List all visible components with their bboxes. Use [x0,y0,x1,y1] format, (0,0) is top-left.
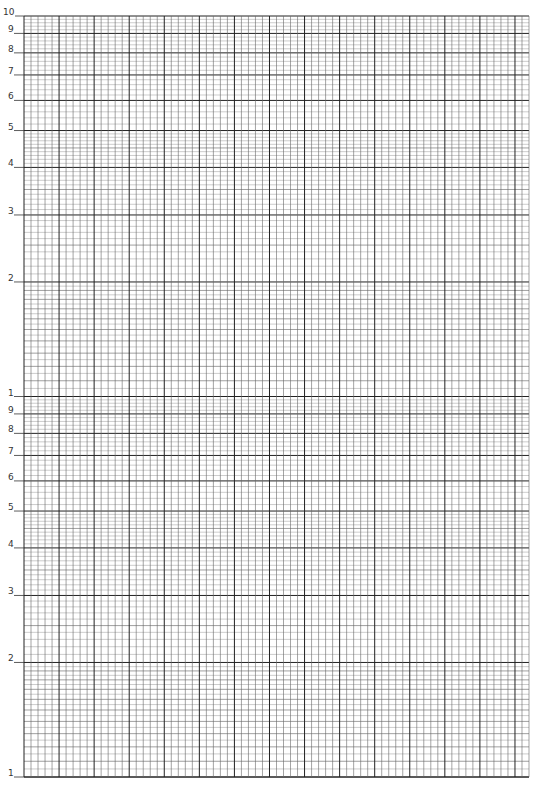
axis-label: 9 [8,406,14,415]
axis-label: 4 [8,540,14,549]
axis-label: 3 [8,207,14,216]
axis-label: 7 [8,447,14,456]
axis-label: 2 [8,274,14,283]
axis-label: 1 [8,769,14,778]
axis-label: 7 [8,67,14,76]
axis-label: 6 [8,473,14,482]
axis-label: 9 [8,25,14,34]
axis-label: 2 [8,654,14,663]
axis-label: 5 [8,503,14,512]
axis-label: 1 [8,389,14,398]
axis-label: 8 [8,425,14,434]
axis-label: 10 [3,8,14,17]
axis-label: 4 [8,159,14,168]
axis-label: 6 [8,92,14,101]
axis-label: 3 [8,587,14,596]
semi-log-grid [0,0,539,786]
axis-label: 8 [8,45,14,54]
axis-label: 5 [8,123,14,132]
